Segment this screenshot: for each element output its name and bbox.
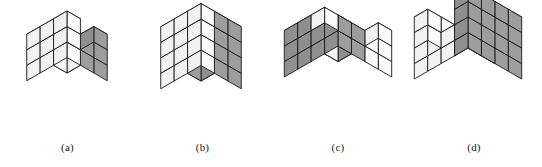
figure-board: (a)(b)(c)(d) [0,0,542,167]
figure-panel-d: (d) [406,0,542,167]
figure-caption: (b) [135,142,270,153]
figure-panel-a: (a) [0,0,135,167]
figure-caption: (a) [0,142,135,153]
figure-panel-c: (c) [270,0,406,167]
figure-caption: (d) [406,142,542,153]
figure-caption: (c) [270,142,406,153]
figure-panel-b: (b) [135,0,270,167]
